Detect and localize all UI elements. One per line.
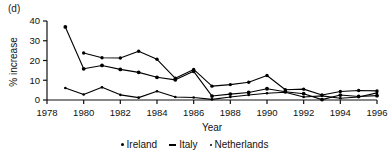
legend-label-italy: Italy [179, 139, 197, 151]
data-point [101, 86, 104, 89]
y-tick-label: 10 [29, 75, 40, 86]
data-point [210, 84, 213, 87]
data-point [137, 50, 140, 53]
legend-item-italy: Italy [169, 139, 197, 151]
data-point [100, 64, 104, 68]
data-point [63, 25, 67, 29]
data-point [119, 94, 122, 97]
data-point [174, 96, 177, 99]
x-tick-label: 1992 [293, 107, 314, 118]
x-tick-label: 1978 [36, 107, 57, 118]
ireland-marker-icon [121, 143, 124, 146]
y-tick-label: 30 [29, 35, 40, 46]
data-point [321, 95, 324, 98]
y-tick-label: 20 [29, 55, 40, 66]
data-point [211, 98, 214, 101]
data-point [210, 94, 214, 98]
data-point [376, 92, 379, 95]
data-point [156, 90, 159, 93]
x-tick-label: 1988 [220, 107, 241, 118]
data-point [64, 87, 67, 90]
data-point [266, 92, 269, 95]
data-point [302, 96, 305, 99]
data-point [82, 51, 85, 54]
data-point [302, 87, 305, 90]
legend-item-ireland: Ireland [121, 139, 158, 151]
italy-marker-icon [169, 144, 176, 146]
x-tick-label: 1986 [183, 107, 204, 118]
data-series-layer [63, 25, 378, 101]
x-tick-label: 1984 [146, 107, 167, 118]
data-point [339, 90, 342, 93]
legend-label-netherlands: Netherlands [215, 139, 269, 151]
x-axis-ticks: 1978198019821984198619881990199219941996 [36, 100, 387, 118]
data-point [338, 93, 342, 97]
data-point [229, 83, 232, 86]
series-line [84, 51, 377, 95]
axes [47, 21, 377, 100]
x-axis-title: Year [202, 122, 223, 133]
data-point [119, 56, 122, 59]
data-point [247, 81, 250, 84]
series-line [65, 27, 377, 100]
data-point [339, 97, 342, 100]
chart-legend: Ireland Italy Netherlands [0, 139, 389, 151]
data-point [265, 87, 269, 91]
series-ireland [63, 25, 378, 101]
data-point [137, 96, 140, 99]
data-point [265, 74, 268, 77]
data-point [155, 75, 159, 79]
data-point [375, 94, 379, 98]
data-point [82, 93, 85, 96]
data-point [118, 67, 122, 71]
data-point [228, 92, 232, 96]
data-point [320, 98, 324, 102]
x-tick-label: 1990 [256, 107, 277, 118]
data-point [357, 89, 360, 92]
data-point [100, 56, 103, 59]
figure-panel-d: (d) 010203040 19781980198219841986198819… [0, 0, 389, 160]
data-point [192, 96, 195, 99]
y-tick-label: 40 [29, 15, 40, 26]
y-tick-label: 0 [35, 94, 40, 105]
data-point [229, 96, 232, 99]
y-axis-ticks: 010203040 [29, 15, 47, 105]
legend-label-ireland: Ireland [127, 139, 158, 151]
data-point [82, 67, 86, 71]
data-point [302, 92, 306, 96]
series-italy [82, 50, 379, 97]
legend-item-netherlands: Netherlands [210, 139, 269, 151]
x-tick-label: 1994 [330, 107, 351, 118]
data-point [357, 96, 360, 99]
data-point [284, 91, 287, 94]
x-tick-label: 1996 [366, 107, 387, 118]
netherlands-marker-icon [210, 144, 212, 146]
x-tick-label: 1982 [110, 107, 131, 118]
data-point [192, 68, 195, 71]
data-point [247, 94, 250, 97]
data-point [155, 58, 158, 61]
x-tick-label: 1980 [73, 107, 94, 118]
data-point [284, 88, 287, 91]
y-axis-title: % increase [8, 37, 19, 87]
data-point [174, 77, 177, 80]
line-chart: 010203040 197819801982198419861988199019… [0, 0, 389, 160]
data-point [137, 70, 141, 74]
